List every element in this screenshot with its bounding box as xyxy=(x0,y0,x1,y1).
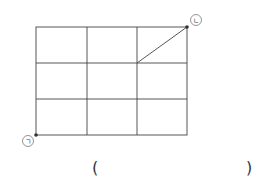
svg-text:ㄴ: ㄴ xyxy=(193,17,199,25)
answer-open-paren: ( xyxy=(92,158,98,177)
label-end-icon: ㄴ xyxy=(191,15,202,26)
svg-text:ㄱ: ㄱ xyxy=(25,138,31,146)
diagonal-path xyxy=(137,27,187,63)
start-point xyxy=(34,133,38,137)
label-start-icon: ㄱ xyxy=(23,136,34,147)
answer-close-paren: ) xyxy=(246,158,252,177)
answer-blank[interactable] xyxy=(102,158,242,180)
end-point xyxy=(185,25,189,29)
